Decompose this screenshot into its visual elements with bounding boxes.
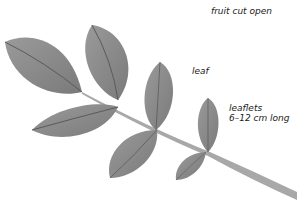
label-leaflets-size: 6–12 cm long (229, 113, 290, 123)
label-leaflets: leaflets 6–12 cm long (229, 103, 290, 123)
label-fruit-cut-open: fruit cut open (211, 6, 272, 16)
label-leaflets-name: leaflets (229, 103, 290, 113)
leaflet-middle-upper (144, 62, 173, 130)
leaflet-right-upper (198, 98, 219, 152)
illustration-canvas: fruit cut open leaf leaflets 6–12 cm lon… (0, 0, 297, 203)
leaflet-top-left (5, 37, 82, 93)
compound-leaf-illustration (0, 0, 297, 203)
leaflet-lower-right (176, 152, 206, 180)
label-leaf: leaf (192, 66, 209, 76)
leaflet-lower-left (32, 104, 118, 137)
leaflet-top-middle (85, 25, 128, 100)
leaflet-lower-middle (109, 130, 157, 178)
